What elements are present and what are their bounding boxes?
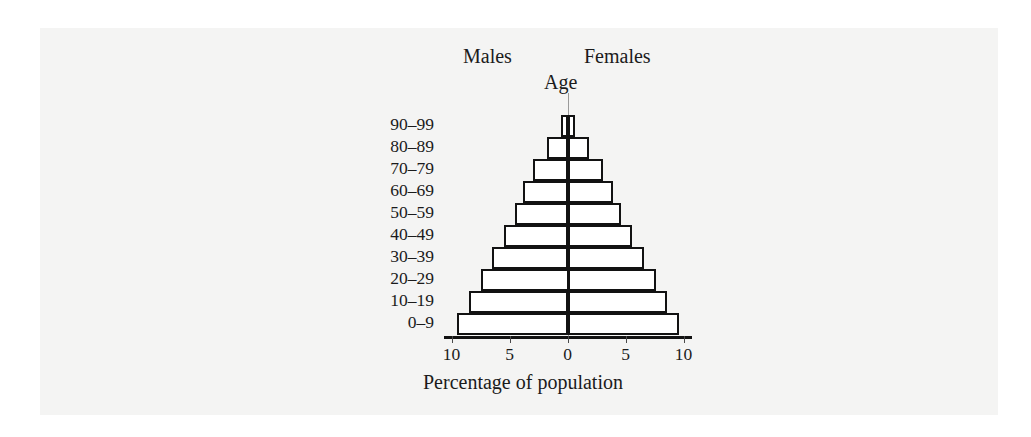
bar-females bbox=[568, 159, 604, 181]
bar-row bbox=[444, 247, 692, 269]
y-axis-tick-label: 90–99 bbox=[390, 113, 434, 135]
bar-females bbox=[568, 269, 656, 291]
bar-males bbox=[504, 225, 569, 247]
bar-males bbox=[469, 291, 569, 313]
bar-row bbox=[444, 137, 692, 159]
legend-label-males: Males bbox=[463, 46, 512, 66]
y-axis-tick-label: 0–9 bbox=[408, 311, 434, 333]
y-axis-title: Age bbox=[544, 72, 577, 92]
y-axis-tick-label: 40–49 bbox=[390, 223, 434, 245]
x-axis-tick bbox=[510, 336, 511, 343]
y-axis-tick-label: 30–39 bbox=[390, 245, 434, 267]
bar-males bbox=[515, 203, 568, 225]
x-axis-tick-label: 10 bbox=[443, 344, 461, 365]
bar-females bbox=[568, 313, 679, 335]
population-pyramid-figure: Males Females Age 90–9980–8970–7960–6950… bbox=[0, 0, 1031, 437]
x-axis-tick-label: 10 bbox=[675, 344, 693, 365]
bar-males bbox=[523, 181, 568, 203]
bar-row bbox=[444, 203, 692, 225]
y-axis-tick-label: 20–29 bbox=[390, 267, 434, 289]
x-axis-tick bbox=[684, 336, 685, 343]
bar-females bbox=[568, 247, 644, 269]
bar-females bbox=[568, 181, 613, 203]
x-axis-tick bbox=[568, 336, 569, 343]
bar-row bbox=[444, 159, 692, 181]
bar-females bbox=[568, 203, 621, 225]
bar-row bbox=[444, 225, 692, 247]
y-axis-tick-labels: 90–9980–8970–7960–6950–5940–4930–3920–29… bbox=[330, 113, 434, 337]
x-axis-tick bbox=[452, 336, 453, 343]
bar-row bbox=[444, 291, 692, 313]
bar-males bbox=[492, 247, 568, 269]
bar-males bbox=[533, 159, 569, 181]
x-axis-tick bbox=[626, 336, 627, 343]
bar-males bbox=[547, 137, 569, 159]
bar-row bbox=[444, 181, 692, 203]
y-axis-tick-label: 80–89 bbox=[390, 135, 434, 157]
x-axis-tick-label: 0 bbox=[563, 344, 572, 365]
x-axis-tick-label: 5 bbox=[505, 344, 514, 365]
y-axis-tick-label: 60–69 bbox=[390, 179, 434, 201]
y-axis-tick-label: 70–79 bbox=[390, 157, 434, 179]
bar-row bbox=[444, 115, 692, 137]
x-axis-tick-label: 5 bbox=[621, 344, 630, 365]
bar-males bbox=[457, 313, 568, 335]
bar-males bbox=[481, 269, 569, 291]
bar-row bbox=[444, 313, 692, 335]
bar-row bbox=[444, 269, 692, 291]
bar-females bbox=[568, 225, 633, 247]
bar-females bbox=[568, 137, 590, 159]
x-axis-title: Percentage of population bbox=[423, 372, 623, 392]
plot-area bbox=[444, 115, 692, 337]
bar-females bbox=[568, 291, 668, 313]
legend-label-females: Females bbox=[584, 46, 651, 66]
bar-females bbox=[568, 115, 576, 137]
y-axis-tick-label: 50–59 bbox=[390, 201, 434, 223]
y-axis-tick-label: 10–19 bbox=[390, 289, 434, 311]
